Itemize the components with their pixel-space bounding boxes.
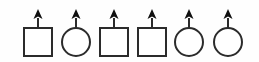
- arrow-head-icon: [224, 9, 233, 19]
- arrow-head-icon: [110, 9, 119, 19]
- arrow-head-icon: [34, 9, 43, 19]
- circle-shape: [175, 28, 203, 56]
- arrow-head-icon: [148, 9, 157, 19]
- square-shape: [100, 28, 128, 56]
- arrow-head-icon: [72, 9, 81, 19]
- square-shape: [24, 28, 52, 56]
- arrowed-shape-item: [100, 9, 128, 56]
- arrowed-shape-item: [175, 9, 203, 56]
- circle-shape: [214, 28, 242, 56]
- arrowed-shape-item: [62, 9, 90, 56]
- arrowed-shape-item: [24, 9, 52, 56]
- shape-sequence-diagram: [0, 0, 259, 62]
- square-shape: [138, 28, 166, 56]
- arrowed-shape-item: [138, 9, 166, 56]
- arrowed-shape-item: [214, 9, 242, 56]
- arrow-head-icon: [185, 9, 194, 19]
- circle-shape: [62, 28, 90, 56]
- figure-canvas: [0, 0, 259, 62]
